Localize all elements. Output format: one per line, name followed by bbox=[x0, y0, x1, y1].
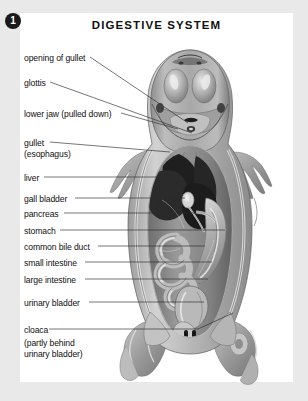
label-cloaca: cloaca bbox=[24, 325, 48, 336]
figure-root: 1 DIGESTIVE SYSTEM bbox=[0, 0, 308, 401]
label-opening-of-gullet: opening of gullet bbox=[24, 53, 85, 64]
label-gullet-esophagus: (esophagus) bbox=[24, 149, 71, 160]
label-urinary-bladder: urinary bladder bbox=[24, 298, 80, 309]
frog-head bbox=[151, 50, 230, 153]
label-pancreas: pancreas bbox=[24, 209, 59, 220]
label-small-intestine: small intestine bbox=[24, 258, 77, 269]
label-glottis: glottis bbox=[24, 78, 46, 89]
label-liver: liver bbox=[24, 173, 39, 184]
label-common-bile-duct: common bile duct bbox=[24, 242, 90, 253]
label-gullet: gullet bbox=[24, 138, 44, 149]
label-stomach: stomach bbox=[24, 226, 56, 237]
frog-body bbox=[128, 50, 252, 357]
label-lower-jaw: lower jaw (pulled down) bbox=[24, 109, 112, 120]
label-cloaca-note-2: urinary bladder) bbox=[24, 349, 83, 360]
label-cloaca-note-1: (partly behind bbox=[24, 338, 75, 349]
label-gall-bladder: gall bladder bbox=[24, 194, 67, 205]
label-large-intestine: large intestine bbox=[24, 275, 76, 286]
